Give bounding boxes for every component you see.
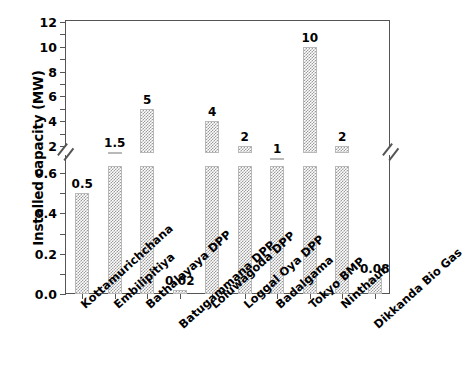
y-tick-mark xyxy=(60,96,66,97)
y-axis-break-left xyxy=(58,140,74,162)
y-tick-mark xyxy=(60,22,66,23)
y-tick-label: 6 xyxy=(48,89,57,104)
y-tick-mark xyxy=(60,234,66,235)
y-tick-mark xyxy=(60,47,66,48)
bar xyxy=(108,152,122,154)
bar xyxy=(335,146,349,153)
y-tick-mark xyxy=(60,109,66,110)
y-tick-mark xyxy=(60,34,66,35)
y-axis-break-right xyxy=(383,140,399,162)
bar-value-label: 4 xyxy=(208,105,216,119)
y-tick-mark xyxy=(60,146,66,147)
y-tick-label: 4 xyxy=(48,114,57,129)
bar xyxy=(303,47,317,153)
y-tick-label: 0.6 xyxy=(35,166,57,181)
y-tick-mark xyxy=(60,254,66,255)
y-tick-mark xyxy=(60,59,66,60)
y-tick-label: 0.2 xyxy=(35,246,57,261)
y-tick-mark xyxy=(60,274,66,275)
y-tick-mark xyxy=(60,173,66,174)
y-tick-mark xyxy=(60,121,66,122)
y-tick-label: 0.0 xyxy=(35,287,57,302)
y-axis-label: Installed capacity (MW) xyxy=(30,43,46,273)
y-tick-mark xyxy=(60,294,66,295)
bar xyxy=(140,109,154,153)
bar-value-label: 2 xyxy=(338,130,346,144)
bar xyxy=(238,146,252,153)
bar-value-label: 5 xyxy=(143,93,151,107)
y-tick-mark xyxy=(60,213,66,214)
bar-value-label: 1 xyxy=(273,142,281,156)
y-tick-label: 10 xyxy=(40,39,57,54)
bar-value-label: 2 xyxy=(241,130,249,144)
y-tick-label: 2 xyxy=(48,139,57,154)
y-tick-mark xyxy=(60,134,66,135)
y-tick-label: 0.4 xyxy=(35,206,57,221)
bar xyxy=(205,166,219,294)
y-tick-mark xyxy=(60,84,66,85)
bar xyxy=(270,158,284,160)
bar-value-label: 0.5 xyxy=(72,177,93,191)
bar xyxy=(75,193,89,294)
bar-value-label: 1.5 xyxy=(104,136,125,150)
plot-area: 0.00.20.40.624681012 0.51.550.024211020.… xyxy=(65,20,390,294)
y-tick-label: 8 xyxy=(48,64,57,79)
y-tick-mark xyxy=(60,193,66,194)
bar xyxy=(205,121,219,153)
y-tick-mark xyxy=(60,72,66,73)
bar-value-label: 10 xyxy=(301,31,318,45)
y-tick-label: 12 xyxy=(40,15,57,30)
